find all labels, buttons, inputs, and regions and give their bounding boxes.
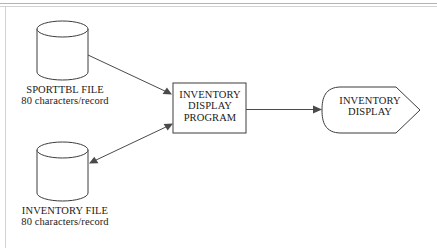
cylinder-sporttbl-file xyxy=(37,21,88,80)
connector-program-to-display xyxy=(246,106,322,114)
label-sporttbl-file: SPORTTBL FILE 80 characters/record xyxy=(10,84,120,107)
label-inventory-file: INVENTORY FILE 80 characters/record xyxy=(10,205,120,228)
label-sporttbl-file-line2: 80 characters/record xyxy=(10,95,120,106)
cylinder-top-sporttbl xyxy=(37,21,88,37)
label-program-line1: INVENTORY xyxy=(173,89,247,100)
cylinder-top-inventory xyxy=(37,142,88,158)
connector-program-to-inventory-file xyxy=(89,124,173,164)
label-program-line3: PROGRAM xyxy=(173,112,247,123)
connector-line-program-to-inventory-file xyxy=(94,126,168,161)
label-inventory-file-line2: 80 characters/record xyxy=(10,216,120,227)
cylinder-inventory-file xyxy=(37,142,88,201)
label-inventory-display-program: INVENTORY DISPLAY PROGRAM xyxy=(173,89,247,123)
label-inventory-file-line1: INVENTORY FILE xyxy=(22,205,108,216)
label-sporttbl-file-line1: SPORTTBL FILE xyxy=(26,84,104,95)
label-inventory-display: INVENTORY DISPLAY xyxy=(330,95,410,118)
label-display-line1: INVENTORY xyxy=(330,95,410,106)
arrowhead-into-display xyxy=(313,106,322,114)
label-display-line2: DISPLAY xyxy=(330,106,410,117)
diagram-canvas: SPORTTBL FILE 80 characters/record INVEN… xyxy=(0,0,437,248)
label-program-line2: DISPLAY xyxy=(173,100,247,111)
